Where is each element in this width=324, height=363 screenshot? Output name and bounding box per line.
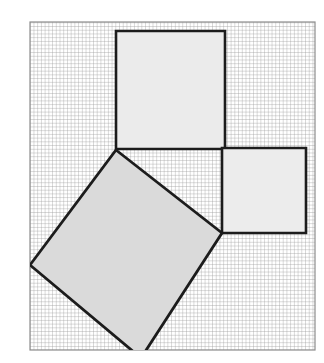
upper-square <box>116 31 225 149</box>
diagram-canvas <box>0 0 324 363</box>
right-square <box>222 148 306 233</box>
geometry-figure <box>0 0 324 363</box>
